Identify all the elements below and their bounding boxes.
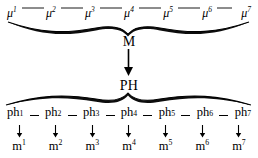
arrow-down-icon-6 [190,125,214,138]
ph-item-3: ph3 [83,106,99,119]
arrow-down-icon-5 [154,125,178,138]
m-item-2: m2 [44,140,68,153]
ph-item-4: ph4 [121,106,137,119]
m-item-7: m7 [227,140,251,153]
mu-item-3: μ3 [84,7,96,19]
arrow-down-icon-2 [44,125,68,138]
mu-item-4: μ4 [123,7,135,19]
node-m-label: M [0,35,258,49]
m-item-1: m1 [7,140,31,153]
ph-connector-6 [219,115,228,116]
mu-item-7: μ7 [240,7,252,19]
ph-to-m-arrows-row [0,125,258,138]
ph-series-row: ph1 ph2 ph3 ph4 ph5 ph6 ph7 [0,106,258,119]
derivation-arrow-down-icon [0,49,258,77]
ph-item-7: ph7 [235,106,251,119]
m-item-4: m4 [117,140,141,153]
mu-item-2: μ2 [45,7,57,19]
ph-connector-5 [181,115,190,116]
node-ph-label: PH [0,79,258,93]
arrow-down-icon-4 [117,125,141,138]
ph-item-2: ph2 [45,106,61,119]
mu-item-1: μ1 [6,7,18,19]
morphology-phonology-diagram: μ1 μ2 μ3 μ4 μ5 μ6 μ7 M PH ph1 ph2 ph3 ph… [0,0,258,158]
ph-item-6: ph6 [197,106,213,119]
mu-item-5: μ5 [162,7,174,19]
arrow-down-icon-1 [7,125,31,138]
m-item-3: m3 [80,140,104,153]
arrow-down-icon-7 [227,125,251,138]
m-item-5: m5 [154,140,178,153]
ph-connector-2 [68,115,77,116]
m-series-row: m1 m2 m3 m4 m5 m6 m7 [0,140,258,153]
ph-item-5: ph5 [159,106,175,119]
ph-connector-1 [30,115,39,116]
ph-item-1: ph1 [7,106,23,119]
mu-item-6: μ6 [201,7,213,19]
arrow-down-icon-3 [80,125,104,138]
ph-connector-3 [106,115,115,116]
ph-connector-4 [143,115,152,116]
m-item-6: m6 [190,140,214,153]
